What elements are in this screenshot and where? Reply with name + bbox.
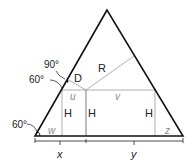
angle-label-90: 90° <box>44 59 59 70</box>
label-H-right: H <box>145 107 153 119</box>
label-w: w <box>48 125 56 136</box>
label-v: v <box>115 91 121 102</box>
label-H-mid: H <box>88 107 96 119</box>
label-z: z <box>164 125 170 136</box>
bottom-bracket <box>35 138 183 145</box>
label-x: x <box>56 148 63 160</box>
segment-R <box>86 56 134 90</box>
angle-label-60-bottom: 60° <box>12 119 27 130</box>
leader-90 <box>56 71 65 79</box>
leader-60-bottom <box>27 124 38 133</box>
label-y: y <box>130 148 138 160</box>
angle-label-60-mid: 60° <box>29 74 44 85</box>
label-u: u <box>70 91 76 102</box>
label-H-left: H <box>64 107 72 119</box>
triangle-diagram: R D u v H H H w z x y 90° 60° 60° <box>0 0 195 168</box>
label-D: D <box>74 72 82 84</box>
leader-60-mid <box>50 80 62 88</box>
label-R: R <box>98 62 106 74</box>
